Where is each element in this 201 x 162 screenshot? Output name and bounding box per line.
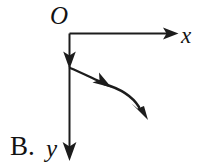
x-axis-label: x [181, 24, 191, 47]
trajectory-curve-second-segment [104, 84, 139, 107]
figure-canvas: O x y B. [0, 0, 201, 162]
y-axis-label: y [46, 136, 57, 161]
origin-label: O [50, 3, 68, 28]
answer-choice-label: B. [10, 133, 35, 160]
